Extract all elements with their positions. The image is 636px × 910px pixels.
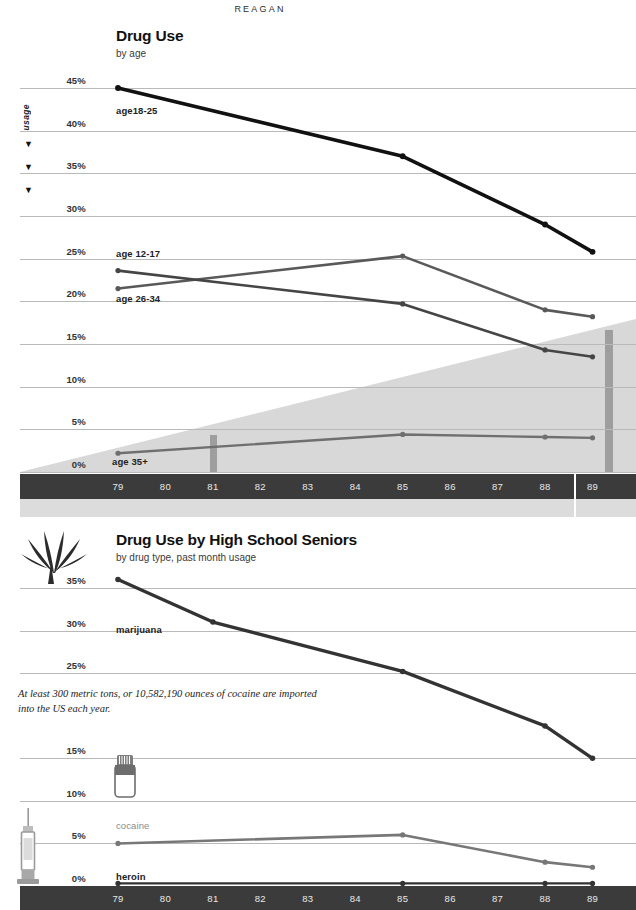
data-point-marker [590, 755, 596, 761]
year-tick-81: 81 [193, 886, 233, 910]
year-tick-88: 88 [525, 886, 565, 910]
data-point-marker [115, 577, 121, 583]
year-tick-79: 79 [98, 886, 138, 910]
data-point-marker [542, 723, 548, 729]
year-tick-85: 85 [383, 886, 423, 910]
data-point-marker [590, 865, 595, 870]
data-point-marker [542, 860, 547, 865]
data-point-marker [400, 669, 406, 675]
infographic-page: Drug Use by age usage ▼ ▼ ▼ 45%40%35%30%… [0, 0, 636, 910]
year-tick-89: 89 [573, 886, 613, 910]
chart2-year-axis: 7980818283848586878889 [20, 886, 636, 910]
year-tick-87: 87 [478, 886, 518, 910]
data-point-marker [400, 832, 405, 837]
year-tick-84: 84 [335, 886, 375, 910]
year-tick-80: 80 [145, 886, 185, 910]
year-tick-86: 86 [430, 886, 470, 910]
data-point-marker [115, 841, 120, 846]
data-point-marker [210, 619, 216, 625]
chart2-series-lines [0, 0, 636, 910]
year-tick-83: 83 [288, 886, 328, 910]
year-tick-82: 82 [240, 886, 280, 910]
series-line-cocaine [118, 835, 593, 867]
series-line-marijuana [118, 579, 593, 758]
